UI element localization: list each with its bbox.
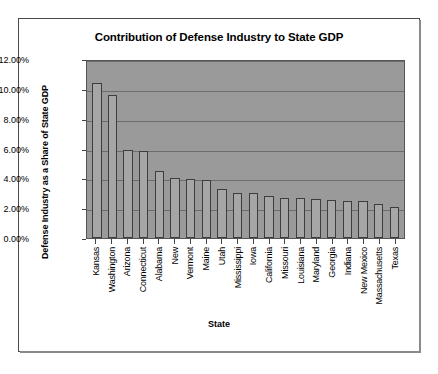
x-axis-tick-mark [300, 239, 301, 244]
y-axis-tick-label: 4.00% [0, 174, 29, 184]
x-axis-tick-label: Washington [107, 247, 117, 292]
x-axis-label-slot: Washington [104, 245, 120, 311]
x-axis-tick-mark [206, 239, 207, 244]
x-axis-ticks [86, 239, 405, 244]
bar-slot [340, 61, 356, 238]
y-axis-tick-label: 0.00% [0, 234, 29, 244]
x-axis-tick-mark [284, 239, 285, 244]
y-axis-tick-label: 8.00% [0, 115, 29, 125]
bar-slot [386, 61, 402, 238]
bar [139, 151, 148, 238]
x-axis-tick-label: Maryland [311, 247, 321, 282]
x-axis-tick-label: Texas [390, 247, 400, 270]
y-axis-tick-label: 6.00% [0, 145, 29, 155]
bar [280, 198, 289, 238]
x-axis-tick-mark [158, 239, 159, 244]
bar-slot [324, 61, 340, 238]
x-axis-label-slot: Massachusetts [372, 245, 388, 311]
x-axis-tick-mark [363, 239, 364, 244]
bar-slot [261, 61, 277, 238]
y-axis-tick-label: 2.00% [0, 204, 29, 214]
x-axis-tick [324, 239, 340, 244]
x-axis-tick [340, 239, 356, 244]
x-axis-tick-label: Utah [217, 247, 227, 265]
x-axis-tick [372, 239, 388, 244]
x-axis-tick-mark [347, 239, 348, 244]
x-axis-label-slot: Texas [387, 245, 403, 311]
y-axis-tick-mark [82, 120, 86, 121]
x-axis-tick-mark [174, 239, 175, 244]
bar [186, 179, 195, 238]
x-axis-tick-label: Kansas [91, 247, 101, 276]
bar [343, 201, 352, 238]
y-axis-title: Defense Industry as a Share of State GDP [40, 67, 50, 277]
x-axis-tick-mark [395, 239, 396, 244]
bar-slot [277, 61, 293, 238]
bar [202, 180, 211, 238]
plot-area [86, 60, 405, 239]
bar [296, 198, 305, 238]
y-axis-tick-mark [82, 60, 86, 61]
x-axis-title: State [19, 319, 419, 329]
bar-slot [214, 61, 230, 238]
bar-slot [293, 61, 309, 238]
x-axis-tick [214, 239, 230, 244]
x-axis-tick-mark [253, 239, 254, 244]
x-axis-tick [356, 239, 372, 244]
x-axis-tick [293, 239, 309, 244]
bar [123, 150, 132, 238]
bar [311, 199, 320, 238]
chart-title: Contribution of Defense Industry to Stat… [19, 31, 419, 43]
bar [108, 95, 117, 238]
x-axis-tick-label: Vermont [185, 247, 195, 279]
x-axis-label-slot: Louisiana [293, 245, 309, 311]
x-axis-label-slot: Alabama [151, 245, 167, 311]
x-axis-label-slot: Vermont [183, 245, 199, 311]
bar [264, 196, 273, 238]
x-axis-tick [261, 239, 277, 244]
bar [374, 204, 383, 238]
x-axis-tick-mark [143, 239, 144, 244]
x-axis-label-slot: Missouri [277, 245, 293, 311]
x-axis-tick-mark [316, 239, 317, 244]
bar-slot [308, 61, 324, 238]
chart-frame: Contribution of Defense Industry to Stat… [18, 18, 420, 352]
x-axis-tick-mark [95, 239, 96, 244]
x-axis-label-slot: Maryland [309, 245, 325, 311]
x-axis-tick [309, 239, 325, 244]
x-axis-tick [230, 239, 246, 244]
y-axis-tick-mark [82, 90, 86, 91]
x-axis-label-slot: Kansas [88, 245, 104, 311]
bar-slot [105, 61, 121, 238]
x-axis-tick-label: Georgia [327, 247, 337, 278]
bar-slot [89, 61, 105, 238]
x-axis-tick-label: Arizona [122, 247, 132, 276]
x-axis-tick-mark [111, 239, 112, 244]
x-axis-tick [198, 239, 214, 244]
x-axis-tick-label: Massachusetts [374, 247, 384, 304]
x-axis-tick-mark [379, 239, 380, 244]
x-axis-tick [167, 239, 183, 244]
bar-slot [167, 61, 183, 238]
x-axis-tick [151, 239, 167, 244]
x-axis-tick [387, 239, 403, 244]
bar-slot [199, 61, 215, 238]
x-axis-tick-mark [221, 239, 222, 244]
bar-slot [152, 61, 168, 238]
x-axis-tick [104, 239, 120, 244]
x-axis-tick-label: California [264, 247, 274, 283]
x-axis-tick-label: Connecticut [138, 247, 148, 292]
y-axis-tick-label: 12.00% [0, 55, 29, 65]
x-axis-label-slot: Georgia [324, 245, 340, 311]
x-axis-tick [135, 239, 151, 244]
x-axis-label-slot: New [167, 245, 183, 311]
x-axis-label-slot: Maine [198, 245, 214, 311]
x-axis-tick-mark [190, 239, 191, 244]
x-axis-tick [88, 239, 104, 244]
x-axis-tick-label: New [170, 247, 180, 264]
bar [390, 207, 399, 238]
y-axis-tick-mark [82, 150, 86, 151]
x-axis-label-slot: Utah [214, 245, 230, 311]
y-axis-tick-mark [82, 209, 86, 210]
x-axis-tick-label: Iowa [248, 247, 258, 265]
